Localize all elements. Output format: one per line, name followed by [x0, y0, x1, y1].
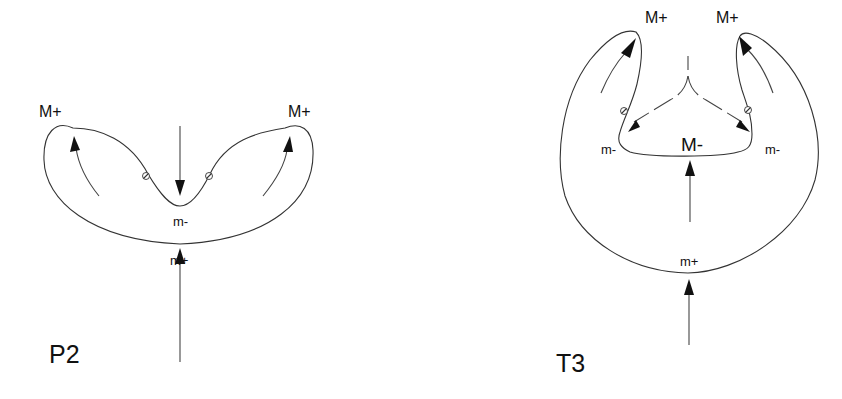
p2-critical-point-left: [143, 173, 150, 180]
t3-critical-point-left: [621, 108, 628, 115]
p2-right-curved-arrow: [263, 150, 287, 196]
t3-label-max-right: M+: [716, 9, 739, 26]
t3-bottom-up-arrowhead: [684, 279, 694, 295]
t3-label-saddle-left: m-: [601, 142, 616, 157]
p2-label-max-right: M+: [288, 103, 311, 120]
panel-t3: M+ M+ m- m- M- m+ T3: [556, 9, 818, 377]
t3-label-inner-max: M-: [681, 134, 703, 155]
t3-dashed-arrowhead-right: [736, 120, 750, 132]
t3-panel-label: T3: [556, 349, 585, 377]
p2-down-arrowhead: [175, 180, 185, 196]
p2-left-curved-arrow: [76, 148, 99, 196]
t3-dashed-arrow-right: [688, 76, 742, 122]
t3-label-saddle-right: m-: [765, 142, 780, 157]
t3-right-curved-arrow: [748, 50, 773, 93]
p2-right-arrowhead: [283, 136, 293, 152]
t3-inner-up-arrowhead: [685, 160, 695, 176]
p2-label-min-saddle: m-: [173, 214, 188, 229]
t3-label-max-left: M+: [645, 9, 668, 26]
p2-label-min-bottom: m+: [170, 253, 188, 268]
t3-label-min-bottom: m+: [680, 254, 698, 269]
t3-dashed-arrow-left: [634, 76, 688, 122]
panel-p2: M+ M+ m- m+ P2: [39, 103, 313, 368]
p2-critical-point-right: [206, 173, 213, 180]
t3-critical-point-right: [745, 107, 752, 114]
p2-panel-label: P2: [49, 340, 80, 368]
p2-label-max-left: M+: [39, 103, 62, 120]
p2-left-arrowhead: [70, 136, 80, 152]
t3-left-curved-arrow: [601, 52, 626, 93]
diagram-canvas: M+ M+ m- m+ P2: [0, 0, 842, 399]
t3-right-arrowhead: [739, 36, 752, 56]
